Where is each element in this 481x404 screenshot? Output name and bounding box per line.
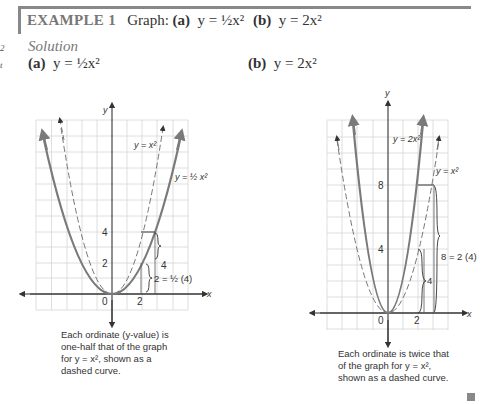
caption-line: Each ordinate is twice that: [338, 348, 449, 360]
graph-a-caption: Each ordinate (y-value) is one-half that…: [61, 329, 169, 377]
caption-line: dashed curve.: [61, 365, 169, 377]
graph-a-solid-label: y = ½ x²: [174, 172, 208, 182]
graph-b-tick-y8: 8: [378, 180, 384, 191]
graph-b-solid-label: y = 2x²: [392, 134, 421, 144]
graph-b-brace-inner-label: 4: [427, 275, 432, 286]
graph-b-x-label: x: [466, 309, 472, 319]
graph-b-dashed-label: y = x²: [435, 166, 459, 176]
end-of-example-mark: [467, 393, 475, 401]
graph-b-y-label: y: [384, 88, 390, 98]
caption-line: one-half that of the graph: [61, 341, 169, 353]
caption-line: for y = x², shown as a: [61, 353, 169, 365]
caption-line: Each ordinate (y-value) is: [61, 329, 169, 341]
graph-a-x-label: x: [206, 289, 212, 299]
graph-a-dashed-label: y = x²: [133, 140, 157, 150]
graph-a-tick-x0: 0: [102, 296, 108, 307]
caption-line: shown as a dashed curve.: [338, 372, 449, 384]
graph-b-tick-y4: 4: [378, 244, 384, 255]
graph-b-tick-x0: 0: [378, 315, 384, 326]
graph-a-tick-y2: 2: [102, 258, 108, 269]
graph-a-tick-x2: 2: [137, 296, 143, 307]
graph-a-brace-bottom-label: 2 = ½ (4): [154, 273, 192, 284]
graph-b-brace-outer-label: 8 = 2 (4): [441, 251, 477, 262]
graph-b-caption: Each ordinate is twice that of the graph…: [338, 348, 449, 384]
graph-b-tick-x2: 2: [414, 315, 420, 326]
caption-line: of the graph for y = x²,: [338, 360, 449, 372]
graph-a-tick-y4: 4: [102, 227, 108, 238]
graph-a-y-label: y: [102, 105, 108, 115]
graph-a-brace-top-label: 4: [161, 260, 167, 271]
